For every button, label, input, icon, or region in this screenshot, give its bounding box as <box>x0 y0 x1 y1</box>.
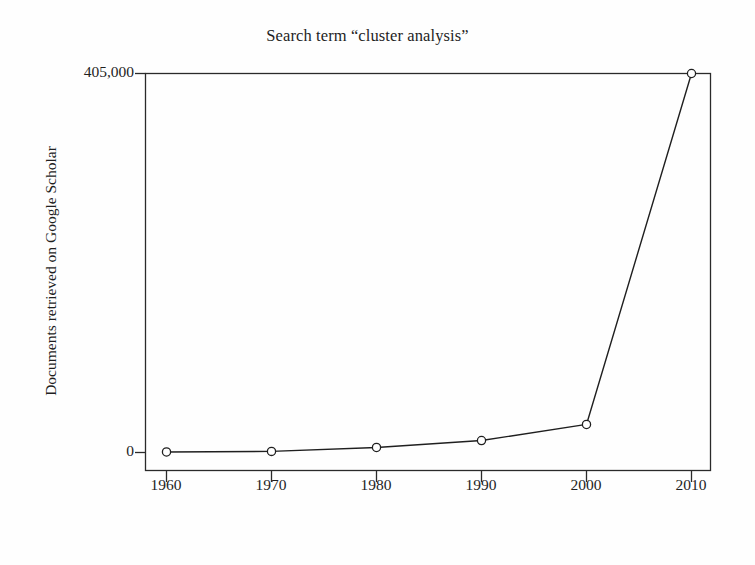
series-line <box>167 74 692 452</box>
chart-figure: Search term “cluster analysis” Documents… <box>0 0 755 565</box>
data-point-2000 <box>582 420 590 428</box>
data-point-2010 <box>687 69 695 77</box>
data-point-1980 <box>372 443 380 451</box>
x-axis-ticks <box>167 471 692 483</box>
series-markers <box>162 69 695 456</box>
y-axis-ticks <box>135 74 146 453</box>
data-point-1960 <box>162 448 170 456</box>
data-point-1990 <box>477 436 485 444</box>
plot-area <box>0 0 755 565</box>
plot-frame <box>146 74 711 471</box>
data-point-1970 <box>267 447 275 455</box>
